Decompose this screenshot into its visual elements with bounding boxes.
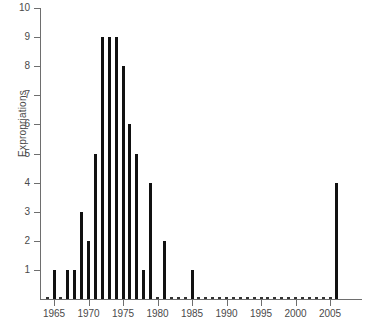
bar <box>232 297 235 299</box>
bar <box>128 124 131 299</box>
y-axis-tick-label: 5 <box>24 148 30 159</box>
y-axis-tick-label: 10 <box>19 2 30 13</box>
bar <box>177 297 180 299</box>
y-axis-tick-label: 1 <box>24 264 30 275</box>
bar <box>94 154 97 300</box>
bar <box>218 297 221 299</box>
bar <box>122 66 125 299</box>
bar <box>294 297 297 299</box>
bar <box>87 241 90 299</box>
bar <box>184 297 187 299</box>
y-axis-tick-label: 2 <box>24 235 30 246</box>
x-axis-tick <box>123 300 124 306</box>
bar <box>204 297 207 299</box>
x-axis-tick-label: 2005 <box>319 308 341 319</box>
x-axis-tick-label: 1990 <box>215 308 237 319</box>
bar <box>197 297 200 299</box>
bar <box>53 270 56 299</box>
x-axis-tick <box>54 300 55 306</box>
x-axis-tick <box>158 300 159 306</box>
bar <box>273 297 276 299</box>
bar <box>329 297 332 299</box>
x-axis-tick <box>261 300 262 306</box>
y-axis-tick-label: 6 <box>24 118 30 129</box>
bar <box>191 270 194 299</box>
bar <box>225 297 228 299</box>
bar <box>142 270 145 299</box>
bar <box>170 297 173 299</box>
bar <box>253 297 256 299</box>
bar <box>163 241 166 299</box>
bar <box>59 297 62 299</box>
bar <box>322 297 325 299</box>
x-axis-tick <box>89 300 90 306</box>
bar <box>335 183 338 299</box>
bar <box>239 297 242 299</box>
x-axis-tick-label: 1970 <box>77 308 99 319</box>
expropriations-bar-chart: Expropriations 12345678910 1965197019751… <box>0 0 367 327</box>
bar <box>156 297 159 299</box>
x-axis-tick-label: 1980 <box>146 308 168 319</box>
x-axis-tick-label: 1965 <box>43 308 65 319</box>
bar <box>287 297 290 299</box>
bar <box>149 183 152 299</box>
bar <box>101 37 104 299</box>
bar <box>260 297 263 299</box>
bar <box>115 37 118 299</box>
bar <box>211 297 214 299</box>
bar <box>266 297 269 299</box>
bar <box>80 212 83 299</box>
bar <box>308 297 311 299</box>
x-axis-tick-label: 1975 <box>112 308 134 319</box>
x-axis-tick-label: 1985 <box>181 308 203 319</box>
x-axis-tick <box>296 300 297 306</box>
bar <box>280 297 283 299</box>
bar <box>73 270 76 299</box>
y-axis-tick-label: 4 <box>24 177 30 188</box>
bar <box>135 154 138 300</box>
y-axis-tick-label: 9 <box>24 31 30 42</box>
bar <box>108 37 111 299</box>
y-axis-tick-label: 3 <box>24 206 30 217</box>
bar <box>315 297 318 299</box>
bar <box>301 297 304 299</box>
bar <box>46 297 49 299</box>
x-axis-tick <box>192 300 193 306</box>
y-axis-tick-label: 8 <box>24 60 30 71</box>
y-axis-tick-label: 7 <box>24 89 30 100</box>
x-axis-tick <box>330 300 331 306</box>
bar <box>66 270 69 299</box>
x-axis-tick-label: 1995 <box>250 308 272 319</box>
x-axis-tick-label: 2000 <box>284 308 306 319</box>
bar <box>246 297 249 299</box>
x-axis-tick <box>227 300 228 306</box>
